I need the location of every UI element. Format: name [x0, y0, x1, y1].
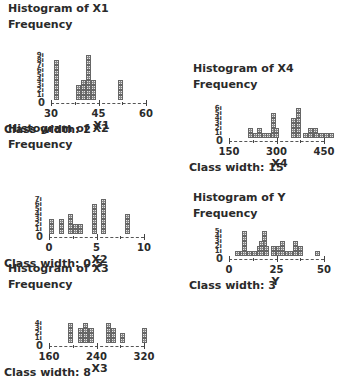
y-axis-label: Frequency [193, 78, 257, 91]
y-axis-label: Frequency [8, 18, 72, 31]
histogram-cell [142, 338, 147, 343]
x-tick-label: 50 [317, 264, 331, 275]
x-tick-label: 10 [137, 242, 151, 253]
histogram-cell [125, 214, 130, 219]
histogram-cell [91, 85, 96, 90]
x-axis-tick [73, 236, 74, 239]
histogram-cell [125, 224, 130, 229]
y-tick-label: 4ı [34, 320, 42, 327]
histogram-cell [120, 333, 125, 338]
x-axis-tick [229, 138, 230, 144]
histogram-cell [125, 229, 130, 234]
histogram-cell [92, 219, 97, 224]
histogram-cell [329, 133, 334, 138]
chart-title: Histogram of X4 [193, 62, 294, 75]
histogram-cell [59, 219, 64, 224]
x-tick-label: 45 [92, 108, 106, 119]
histogram-cell [86, 55, 91, 60]
x-tick-label: 0 [46, 242, 53, 253]
y-axis-label: Frequency [8, 278, 72, 291]
histogram-cell [271, 118, 276, 123]
x-axis-tick [144, 343, 145, 349]
x-axis-label: X3 [92, 362, 108, 375]
x-axis-tick [51, 100, 52, 106]
histogram-cell [298, 246, 303, 251]
x-axis-tick [97, 343, 98, 349]
histogram-cell [111, 333, 116, 338]
x-axis-tick [146, 100, 147, 106]
histogram-cell [142, 328, 147, 333]
x-tick-label: 320 [134, 351, 155, 362]
histogram-cell [54, 95, 59, 100]
histogram-cell [315, 251, 320, 256]
histogram-cell [111, 328, 116, 333]
histogram-cell [54, 60, 59, 65]
histogram-cell [91, 80, 96, 85]
x-tick-label: 450 [314, 146, 335, 157]
histogram-cell [264, 251, 269, 256]
histogram-cell [274, 128, 279, 133]
class-width-label: Class width: 8 [4, 366, 91, 379]
x-tick-label: 160 [39, 351, 60, 362]
histogram-cell [78, 224, 83, 229]
x-axis-tick [324, 256, 325, 262]
histogram-cell [49, 224, 54, 229]
histogram-cell [92, 209, 97, 214]
histogram-cell [296, 123, 301, 128]
x-tick-label: 240 [86, 351, 107, 362]
x-axis-tick [253, 140, 254, 143]
histogram-cell [242, 241, 247, 246]
histogram-cell [89, 333, 94, 338]
histogram-cell [101, 229, 106, 234]
x-axis-tick [253, 258, 254, 261]
histogram-cell [271, 113, 276, 118]
x-axis-tick [300, 140, 301, 143]
histogram-cell [91, 95, 96, 100]
histogram-cell [101, 204, 106, 209]
histogram-cell [101, 219, 106, 224]
x-tick-label: 300 [266, 146, 287, 157]
x-axis-tick [277, 256, 278, 262]
y-tick-label: 0 [215, 136, 223, 146]
histogram-cell [125, 219, 130, 224]
x-tick-label: 60 [139, 108, 153, 119]
histogram-cell [54, 80, 59, 85]
x-axis-tick [122, 102, 123, 105]
histogram-cell [296, 113, 301, 118]
chart-title: Histogram of Y [193, 191, 286, 204]
x-axis-tick [144, 234, 145, 240]
histogram-cell [262, 231, 267, 236]
histogram-cell [264, 246, 269, 251]
histogram-cell [68, 333, 73, 338]
histogram-cell [118, 85, 123, 90]
y-tick-label: 6ı [214, 105, 222, 112]
histogram-cell [68, 214, 73, 219]
y-tick-label: 7ı [34, 196, 42, 203]
histogram-cell [54, 85, 59, 90]
histogram-cell [54, 65, 59, 70]
histogram-cell [54, 70, 59, 75]
histogram-cell [92, 214, 97, 219]
y-tick-label: 0 [215, 254, 223, 264]
x-axis-tick [120, 236, 121, 239]
histogram-cell [89, 328, 94, 333]
histogram-cell [296, 133, 301, 138]
x-axis-tick [300, 258, 301, 261]
x-tick-label: 25 [270, 264, 284, 275]
histogram-cell [49, 219, 54, 224]
x-axis-tick [75, 102, 76, 105]
histogram-cell [118, 95, 123, 100]
histogram-cell [59, 229, 64, 234]
histogram-cell [92, 229, 97, 234]
histogram-cell [49, 229, 54, 234]
class-width-label: Class width: 15 [189, 161, 284, 174]
y-tick-label: 0 [35, 232, 43, 242]
x-axis-tick [277, 138, 278, 144]
class-width-label: Class width: 3 [189, 279, 276, 292]
y-tick-label: 5ı [214, 228, 222, 235]
x-tick-label: 0 [226, 264, 233, 275]
histogram-cell [242, 231, 247, 236]
histogram-cell [280, 241, 285, 246]
x-axis-tick [73, 345, 74, 348]
histogram-cell [242, 236, 247, 241]
